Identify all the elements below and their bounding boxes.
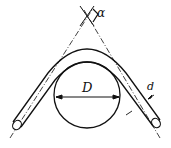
centerlines <box>10 10 160 138</box>
apex-cross <box>80 6 94 26</box>
pipe-end-left <box>11 119 23 132</box>
angle-label: α <box>97 6 105 20</box>
pipe-end-right <box>150 117 162 130</box>
diagram-drawing <box>0 0 171 148</box>
pipe-diameter-label: d <box>147 80 154 93</box>
pipe-bend-diagram: α D d <box>0 0 171 148</box>
diameter-dimension <box>56 95 119 99</box>
die-diameter-label: D <box>82 80 92 95</box>
